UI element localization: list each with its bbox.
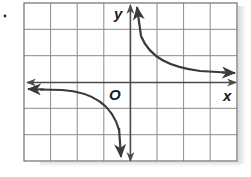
origin-label: O	[109, 86, 121, 103]
hyperbola-graph-figure: y O x	[0, 0, 251, 177]
problem-marker-dot	[4, 15, 7, 18]
curve-upper-right-branch	[137, 7, 235, 73]
curve-lower-left-branch	[28, 89, 121, 157]
graph-canvas: y O x	[0, 0, 251, 177]
x-axis-label: x	[222, 87, 232, 104]
y-axis-label: y	[113, 5, 123, 22]
